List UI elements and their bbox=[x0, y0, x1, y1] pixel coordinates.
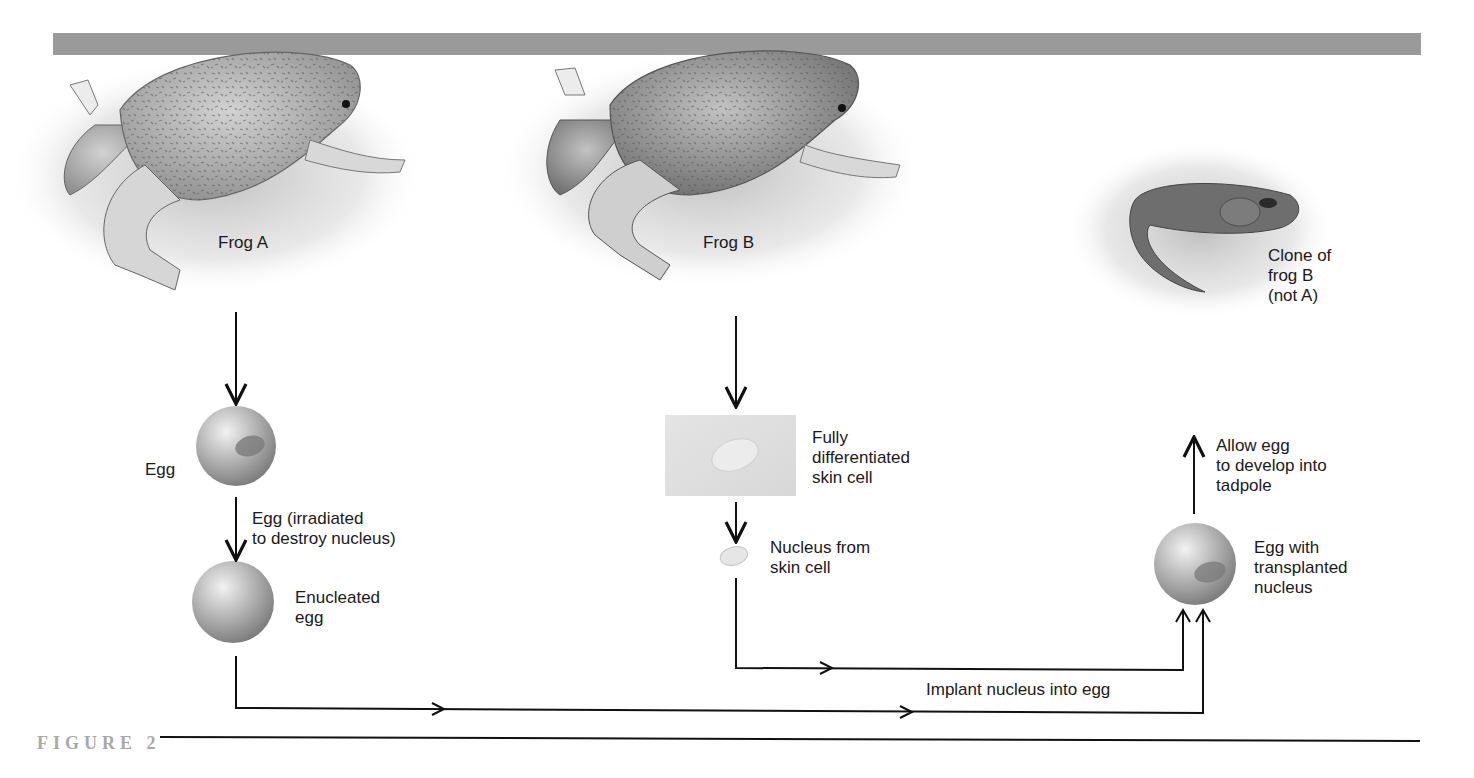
implant-label: Implant nucleus into egg bbox=[926, 680, 1110, 700]
develop-label: Allow egg to develop into tadpole bbox=[1216, 436, 1327, 496]
figure-caption: FIGURE 2 bbox=[37, 733, 161, 754]
diagram-canvas: Frog A Frog B bbox=[0, 0, 1474, 778]
irradiation-label: Egg (irradiated to destroy nucleus) bbox=[252, 509, 396, 549]
frog-a-label: Frog A bbox=[218, 233, 269, 252]
skin-nucleus-label: Nucleus from skin cell bbox=[770, 538, 870, 578]
bottom-rule bbox=[160, 737, 1420, 741]
frog-b-illustration bbox=[495, 50, 925, 290]
clone-label: Clone of frog B (not A) bbox=[1268, 246, 1331, 306]
egg-illustration bbox=[196, 406, 276, 486]
skin-cell-label: Fully differentiated skin cell bbox=[812, 428, 910, 488]
egg-transplanted-illustration bbox=[1154, 523, 1236, 605]
frog-b-label: Frog B bbox=[703, 233, 754, 252]
skin-cell-illustration bbox=[665, 415, 796, 496]
enucleated-egg-illustration bbox=[192, 561, 274, 643]
egg-transplanted-label: Egg with transplanted nucleus bbox=[1254, 538, 1348, 598]
skin-nucleus-illustration bbox=[718, 544, 750, 569]
frog-a-illustration bbox=[5, 52, 425, 295]
egg-label: Egg bbox=[145, 460, 175, 480]
connector-nucleus-to-egg bbox=[736, 578, 1183, 670]
enucleated-egg-label: Enucleated egg bbox=[295, 588, 380, 628]
